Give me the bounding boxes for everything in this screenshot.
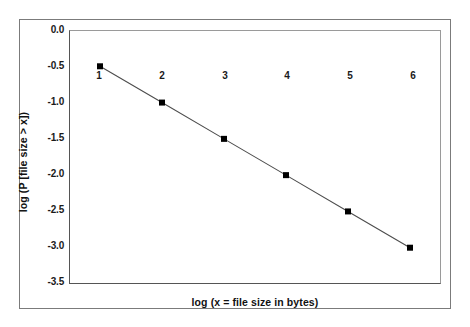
data-point-marker	[345, 208, 351, 214]
data-point-marker	[221, 136, 227, 142]
data-point-marker	[407, 245, 413, 251]
y-tick-label-0: 0.0	[24, 25, 64, 35]
data-point-marker	[159, 100, 165, 106]
data-point-marker	[283, 172, 289, 178]
y-axis-title-text: log (P [file size > x])	[17, 112, 29, 212]
series-line	[100, 66, 410, 247]
x-axis-title: log (x = file size in bytes)	[69, 296, 441, 308]
data-point-marker	[97, 63, 103, 69]
y-tick-label-7: -3.5	[24, 277, 64, 287]
figure-container: 0.0 -0.5 -1.0 -1.5 -2.0 -2.5 -3.0 -3.5 1…	[0, 0, 470, 327]
y-axis-title: log (P [file size > x])	[14, 54, 32, 270]
data-series-plot	[69, 30, 441, 284]
